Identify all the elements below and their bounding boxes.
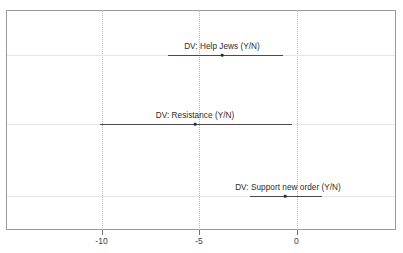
axis-tick-label-zero: 0 (294, 236, 299, 246)
coefficient-plot-figure: -10 -5 0 DV: Help Jews (Y/N) DV: Resista… (0, 0, 403, 253)
axis-tick-label-neg5: -5 (195, 236, 203, 246)
estimate-label-help-jews: DV: Help Jews (Y/N) (184, 42, 260, 51)
axis-tick-zero (297, 230, 298, 235)
confidence-interval-help-jews (168, 55, 283, 56)
point-estimate-resistance (194, 123, 197, 126)
estimate-label-resistance: DV: Resistance (Y/N) (156, 111, 235, 120)
axis-tick-neg10 (102, 230, 103, 235)
axis-tick-label-neg10: -10 (95, 236, 108, 246)
estimate-label-support-new-order: DV: Support new order (Y/N) (235, 183, 341, 192)
axis-tick-neg5 (199, 230, 200, 235)
point-estimate-help-jews (221, 54, 224, 57)
point-estimate-support-new-order (284, 195, 287, 198)
gridline-vertical-zero (297, 10, 298, 230)
gridline-vertical-neg10 (102, 10, 103, 230)
gridline-horizontal-row-3 (7, 196, 395, 197)
